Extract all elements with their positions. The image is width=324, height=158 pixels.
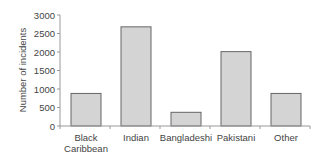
bar-chart: Number of incidents 05001000150020002500…	[0, 0, 324, 158]
x-axis: BlackCaribbeanIndianBangladeshiPakistani…	[60, 126, 310, 154]
y-tick-label: 3000	[34, 10, 55, 21]
bar-indian	[121, 27, 151, 126]
bar-black-caribbean	[71, 93, 101, 126]
x-category-label: Black	[74, 132, 97, 143]
y-tick-label: 0	[50, 121, 55, 132]
bar-pakistani	[221, 52, 251, 126]
x-category-label: Bangladeshi	[160, 132, 212, 143]
y-tick-label: 1000	[34, 84, 55, 95]
y-tick-label: 500	[39, 102, 55, 113]
x-category-label: Indian	[123, 132, 149, 143]
y-tick-label: 1500	[34, 65, 55, 76]
bar-bangladeshi	[171, 112, 201, 126]
x-category-label: Pakistani	[217, 132, 256, 143]
x-category-label: Caribbean	[64, 143, 108, 154]
y-axis-label: Number of incidents	[17, 28, 28, 113]
y-tick-label: 2000	[34, 47, 55, 58]
y-axis: 050010001500200025003000	[34, 10, 60, 132]
bars	[71, 27, 301, 126]
y-tick-label: 2500	[34, 28, 55, 39]
bar-other	[271, 93, 301, 126]
x-category-label: Other	[274, 132, 298, 143]
